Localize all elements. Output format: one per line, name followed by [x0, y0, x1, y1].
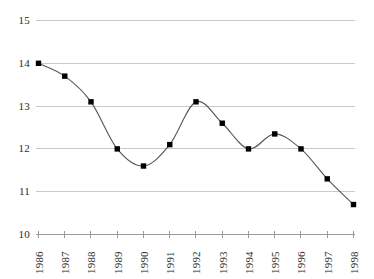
data-point-1991 [167, 142, 172, 147]
y-tick-label-12: 12 [8, 143, 30, 154]
plot-area [0, 0, 374, 279]
y-tick-label-10: 10 [8, 229, 30, 240]
series-markers [36, 61, 356, 208]
x-tick-label-1989: 1989 [113, 251, 124, 274]
gridlines [36, 21, 355, 192]
x-tick-label-1988: 1988 [86, 251, 97, 274]
x-tick-label-1995: 1995 [270, 251, 281, 274]
data-point-1995 [272, 131, 277, 136]
x-tick-label-1997: 1997 [323, 251, 334, 274]
y-tick-label-14: 14 [8, 58, 30, 69]
data-point-1998 [351, 202, 356, 207]
data-point-1989 [115, 146, 120, 151]
x-axis-line-group [36, 231, 355, 238]
data-point-1993 [220, 121, 225, 126]
data-point-1997 [325, 176, 330, 181]
y-tick-label-13: 13 [8, 101, 30, 112]
line-chart: 15 14 13 12 11 10 1986 1987 1988 1989 19… [0, 0, 374, 279]
data-point-1990 [141, 163, 146, 168]
data-point-1996 [298, 146, 303, 151]
data-point-1987 [62, 73, 67, 78]
x-tick-label-1994: 1994 [244, 251, 255, 274]
x-tick-label-1990: 1990 [139, 251, 150, 274]
data-point-1988 [88, 99, 93, 104]
series-line [39, 63, 354, 204]
x-tick-label-1987: 1987 [60, 251, 71, 274]
x-tick-label-1992: 1992 [191, 251, 202, 274]
x-tick-label-1986: 1986 [34, 251, 45, 274]
x-tick-label-1991: 1991 [165, 251, 176, 274]
data-point-1986 [36, 61, 41, 66]
data-point-1994 [246, 146, 251, 151]
x-tick-label-1996: 1996 [296, 251, 307, 274]
x-tick-label-1993: 1993 [218, 251, 229, 274]
y-tick-label-11: 11 [8, 186, 30, 197]
x-tick-label-1998: 1998 [349, 251, 360, 274]
y-tick-label-15: 15 [8, 15, 30, 26]
data-point-1992 [193, 99, 198, 104]
